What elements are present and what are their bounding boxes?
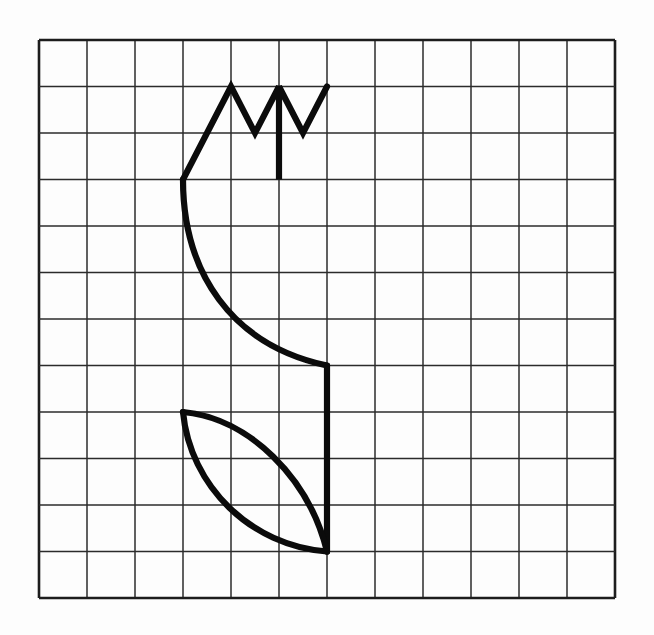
tulip-grid-figure: [0, 0, 654, 635]
leaf-lower-edge: [183, 412, 327, 552]
flower-zigzag-petals: [183, 87, 327, 180]
drawing-canvas: [0, 0, 654, 635]
